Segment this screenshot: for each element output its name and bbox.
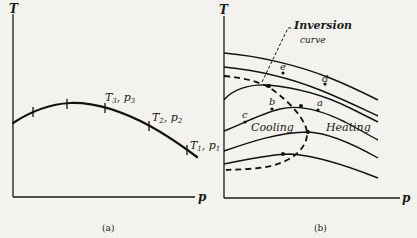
inversion-label-line1: Inversion	[293, 19, 352, 32]
throttling-diagram: T p T3, p3 T2, p2 T1, p1 (a) T p	[0, 0, 417, 238]
state-label-2: T2, p2	[152, 111, 183, 125]
point-label-b: b	[269, 96, 275, 107]
panel-b-caption: (b)	[314, 223, 327, 233]
point-label-c: c	[242, 109, 248, 120]
panel-a: T p T3, p3 T2, p2 T1, p1 (a)	[9, 2, 220, 233]
labelled-points	[243, 71, 326, 123]
point-label-d: d	[322, 73, 328, 84]
panel-a-x-axis-label: p	[198, 190, 207, 204]
point-label-e: e	[280, 61, 286, 72]
panel-b: T p Inversion curve	[219, 3, 411, 233]
heating-region-label: Heating	[325, 121, 371, 134]
panel-b-x-axis-label: p	[402, 191, 411, 205]
point-label-a: a	[317, 97, 323, 108]
panel-b-y-axis-label: T	[219, 3, 229, 17]
panel-a-caption: (a)	[102, 223, 114, 233]
state-label-3: T3, p3	[105, 91, 136, 105]
panel-a-y-axis-label: T	[9, 2, 19, 16]
state-point-ticks	[33, 99, 187, 155]
cooling-region-label: Cooling	[251, 121, 294, 134]
state-label-1: T1, p1	[190, 139, 220, 153]
inversion-label-line2: curve	[300, 35, 326, 45]
